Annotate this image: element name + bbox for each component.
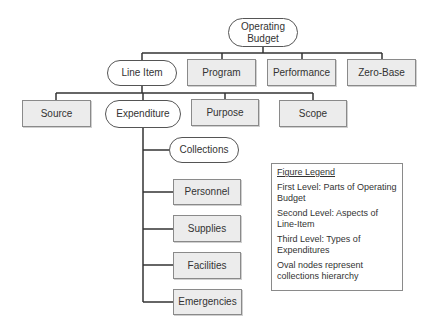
node-operating-budget[interactable]: Operating Budget [228,18,298,47]
figure-legend: Figure Legend First Level: Parts of Oper… [271,163,403,291]
node-label: Purpose [206,107,243,119]
node-label: Source [41,108,73,120]
node-label: Line Item [121,67,162,79]
legend-title: Figure Legend [277,167,397,178]
node-label: Collections [180,144,229,156]
legend-item: Second Level: Aspects of Line-Item [277,208,397,230]
node-label: Program [202,67,240,79]
node-scope[interactable]: Scope [279,100,347,127]
node-label: Performance [273,67,330,79]
node-program[interactable]: Program [187,59,256,86]
node-label: Personnel [184,186,229,198]
node-performance[interactable]: Performance [267,59,336,86]
node-label: Facilities [188,260,227,272]
node-purpose[interactable]: Purpose [191,99,259,126]
node-line-item[interactable]: Line Item [107,60,177,86]
node-facilities[interactable]: Facilities [173,252,241,279]
node-emergencies[interactable]: Emergencies [173,289,242,315]
node-source[interactable]: Source [22,100,91,127]
node-label: Expenditure [116,108,169,120]
node-supplies[interactable]: Supplies [173,215,241,242]
legend-item: First Level: Parts of Operating Budget [277,182,397,204]
node-label: Supplies [188,223,226,235]
node-collections[interactable]: Collections [169,137,239,163]
node-expenditure[interactable]: Expenditure [105,100,181,128]
node-zero-base[interactable]: Zero-Base [347,59,416,86]
node-label: Scope [299,108,327,120]
legend-item: Oval nodes represent collections hierarc… [277,260,397,282]
node-label: Emergencies [178,296,236,308]
legend-item: Third Level: Types of Expenditures [277,234,397,256]
node-label: Zero-Base [358,67,405,79]
node-label: Operating Budget [229,21,297,45]
node-personnel[interactable]: Personnel [173,179,241,205]
